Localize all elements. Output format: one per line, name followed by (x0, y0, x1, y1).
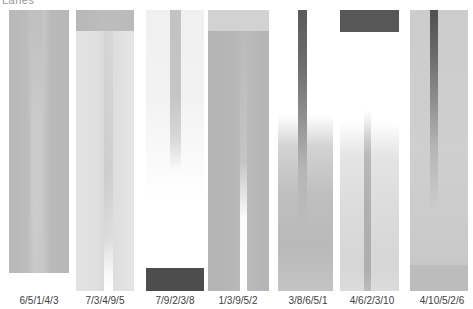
lane-label: 4/10/5/2/6 (401, 294, 473, 307)
lane-label: 7/3/4/9/5 (66, 294, 144, 307)
lane-strip (278, 10, 333, 291)
lane-strip (9, 10, 69, 273)
lane-strip (76, 10, 134, 291)
lane-band-stripe (364, 110, 371, 291)
lane-band-stripe (104, 31, 113, 291)
lane-band-stripe (31, 10, 43, 273)
lane-strip-figure: Lanes 6/5/1/4/37/3/4/9/57/9/2/3/81/3/9/5… (0, 0, 473, 309)
lane-band-top-block (340, 10, 399, 32)
figure-title-clipped: Lanes (2, 0, 122, 7)
lane-label: 1/3/9/5/2 (199, 294, 277, 307)
lane-strip (208, 10, 269, 291)
lane-band-gap (240, 31, 247, 291)
figure-title-text: Lanes (2, 0, 34, 6)
lane-band-body (410, 10, 468, 291)
lane-band-tall-stripe (430, 10, 438, 210)
lane-strip (410, 10, 468, 291)
lane-band-top-block (208, 10, 269, 31)
lane-band-bottom-block (146, 268, 204, 291)
lane-band-body (208, 31, 269, 291)
lane-band-foot (410, 265, 468, 291)
lane-strip (146, 10, 204, 291)
lane-band-stripe (170, 10, 181, 170)
lane-band-tall-stripe (298, 10, 307, 230)
lane-strip (340, 10, 399, 291)
lane-band-top-block (76, 10, 134, 31)
